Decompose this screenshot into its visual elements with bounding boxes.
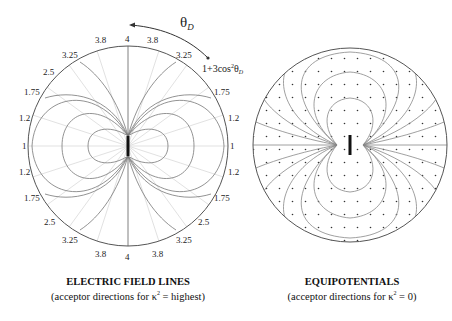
left-subtitle: (acceptor directions for κ2 = highest) bbox=[20, 290, 236, 302]
formula-label: 1+3cos2θD bbox=[202, 63, 244, 75]
svg-text:1.2: 1.2 bbox=[19, 113, 30, 123]
svg-text:1.75: 1.75 bbox=[214, 193, 230, 203]
svg-text:3.8: 3.8 bbox=[95, 35, 107, 45]
field-lines-panel: θD 1+3cos2θD 4 3.8 3.8 3.25 3.25 2.5 1.7… bbox=[19, 14, 244, 262]
svg-text:2.5: 2.5 bbox=[43, 67, 55, 77]
right-caption: EQUIPOTENTIALS (acceptor directions for … bbox=[262, 276, 442, 302]
svg-text:3.25: 3.25 bbox=[176, 235, 192, 245]
theta-label: θD bbox=[180, 14, 194, 32]
svg-text:1.75: 1.75 bbox=[24, 87, 40, 97]
svg-text:1.2: 1.2 bbox=[228, 113, 239, 123]
svg-text:3.8: 3.8 bbox=[95, 249, 107, 259]
svg-text:3.8: 3.8 bbox=[147, 35, 159, 45]
svg-text:1.2: 1.2 bbox=[19, 167, 30, 177]
svg-text:1: 1 bbox=[22, 141, 27, 151]
arc-end-dot bbox=[206, 56, 209, 59]
svg-text:3.25: 3.25 bbox=[62, 235, 78, 245]
svg-text:1.2: 1.2 bbox=[228, 167, 239, 177]
svg-text:2.5: 2.5 bbox=[198, 217, 210, 227]
donor-dipole-icon bbox=[127, 136, 130, 156]
right-title: EQUIPOTENTIALS bbox=[262, 276, 442, 287]
dipole-diagram: θD 1+3cos2θD 4 3.8 3.8 3.25 3.25 2.5 1.7… bbox=[0, 0, 452, 321]
svg-text:1.75: 1.75 bbox=[214, 87, 230, 97]
theta-arc-arrow bbox=[131, 25, 208, 58]
svg-text:3.25: 3.25 bbox=[176, 50, 192, 60]
svg-text:2.5: 2.5 bbox=[44, 217, 56, 227]
left-title: ELECTRIC FIELD LINES bbox=[20, 276, 236, 287]
left-caption: ELECTRIC FIELD LINES (acceptor direction… bbox=[20, 276, 236, 302]
svg-text:3.25: 3.25 bbox=[62, 50, 78, 60]
donor-dipole-icon bbox=[349, 135, 352, 155]
svg-text:1.75: 1.75 bbox=[24, 193, 40, 203]
svg-text:3.8: 3.8 bbox=[152, 249, 164, 259]
arrow-head-icon bbox=[129, 23, 135, 28]
svg-text:4: 4 bbox=[125, 252, 130, 262]
equipotentials-panel bbox=[250, 45, 450, 245]
right-subtitle: (acceptor directions for κ2 = 0) bbox=[262, 290, 442, 302]
svg-text:1: 1 bbox=[230, 141, 235, 151]
svg-text:4: 4 bbox=[125, 34, 130, 44]
